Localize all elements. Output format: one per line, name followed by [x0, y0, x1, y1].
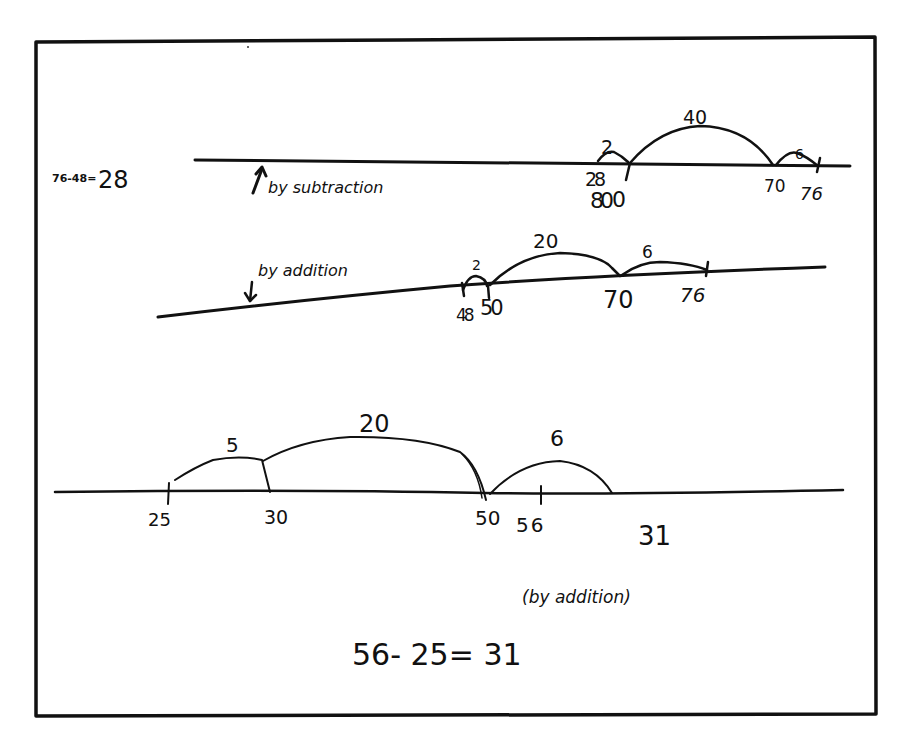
tick-label-28-30: 28 — [585, 168, 605, 190]
jump-label-40: 40 — [683, 106, 707, 128]
up-arrow-icon — [253, 167, 266, 193]
frame-border — [36, 37, 876, 716]
down-arrow-icon — [245, 282, 256, 301]
tick-label-56: 56 — [516, 513, 545, 537]
jump-arc-5 — [175, 458, 270, 493]
method-label-subtraction: by subtraction — [268, 178, 383, 197]
equation-label: 76-48= — [52, 172, 96, 185]
diagram-canvas: 76-48= 28 by subtraction 2 40 6 28 80 0 … — [0, 0, 909, 752]
jump-label-6: 6 — [550, 426, 564, 451]
section-addition-2: 5 20 6 25 30 50 56 31 (by addition) 56- … — [55, 410, 843, 672]
tick-label-30: 80 — [590, 188, 613, 213]
speck — [247, 46, 249, 48]
jump-label-20: 20 — [533, 229, 558, 253]
equation-result: 28 — [98, 166, 129, 194]
tick-30 — [626, 163, 630, 180]
method-label-addition-2: (by addition) — [522, 587, 631, 607]
tick-76 — [817, 158, 820, 172]
jump-arc-40 — [630, 126, 773, 165]
tick-label-50: 50 — [475, 506, 500, 530]
tick-label-70: 70 — [603, 286, 634, 314]
jump-label-2: 2 — [601, 136, 613, 158]
tick-label-30: 30 — [264, 506, 288, 528]
tick-25 — [168, 483, 169, 504]
tick-label-50: 50 — [480, 296, 502, 320]
tick-label-70: 70 — [764, 176, 786, 196]
tick-label-76: 76 — [680, 283, 705, 307]
method-label-addition-1: by addition — [258, 261, 348, 280]
jump-label-2: 2 — [472, 257, 481, 273]
section-subtraction: 76-48= 28 by subtraction 2 40 6 28 80 0 … — [52, 106, 850, 213]
final-equation: 56- 25= 31 — [352, 637, 522, 672]
jump-label-6: 6 — [642, 242, 653, 262]
number-line-addition-2 — [55, 490, 843, 494]
tick-label-76: 76 — [800, 183, 823, 204]
jump-label-6: 6 — [795, 146, 804, 162]
tick-label-48: 48 — [456, 305, 474, 325]
tick-label-30b: 0 — [612, 187, 626, 212]
jump-arc-6 — [490, 461, 612, 494]
tick-76 — [706, 262, 708, 276]
jump-label-20: 20 — [359, 410, 390, 438]
number-line-subtraction — [195, 160, 850, 166]
section-addition-1: by addition 2 20 6 48 50 70 76 — [158, 229, 825, 325]
tick-label-25: 25 — [148, 509, 171, 530]
jump-label-5: 5 — [226, 433, 239, 457]
total-label: 31 — [638, 521, 671, 551]
